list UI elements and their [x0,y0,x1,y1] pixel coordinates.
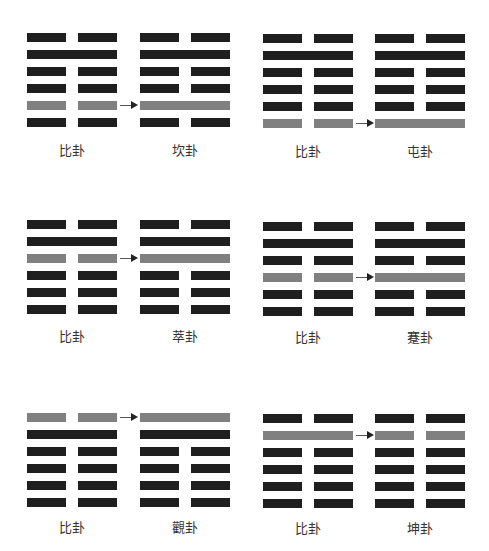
yang-line [27,430,117,439]
yin-line [263,256,353,265]
original-hexagram-label: 比卦 [278,327,338,346]
yin-line [27,67,117,76]
yin-line [27,118,117,127]
resulting-hexagram [375,34,465,129]
yin-line [140,498,230,507]
changing-yang-line [140,254,230,263]
original-hexagram [263,414,353,509]
yin-line [263,222,353,231]
yang-line [263,51,353,60]
yang-line [27,50,117,59]
yin-line [27,464,117,473]
change-arrow-icon [356,119,374,128]
resulting-hexagram [375,414,465,509]
resulting-hexagram [375,222,465,317]
yin-line [140,67,230,76]
yang-line [375,239,465,248]
yang-line [140,50,230,59]
yin-line [140,447,230,456]
yang-line [27,237,117,246]
yin-line [375,102,465,111]
yin-line [27,447,117,456]
yin-line [263,68,353,77]
yin-line [375,222,465,231]
yin-line [263,85,353,94]
changing-yang-line [140,413,230,422]
resulting-hexagram-label: 觀卦 [155,517,215,536]
change-arrow-icon [120,254,138,263]
changing-yin-line [263,273,353,282]
changing-yang-line [375,273,465,282]
yin-line [375,499,465,508]
changing-yang-line [263,431,353,440]
original-hexagram-label: 比卦 [278,141,338,160]
changing-yin-line [27,101,117,110]
yang-line [140,237,230,246]
changing-yang-line [375,119,465,128]
resulting-hexagram [140,413,230,508]
yin-line [263,482,353,491]
resulting-hexagram-label: 屯卦 [390,141,450,160]
resulting-hexagram [140,33,230,128]
yin-line [263,448,353,457]
yin-line [375,465,465,474]
resulting-hexagram [140,220,230,315]
yin-line [27,33,117,42]
original-hexagram-label: 比卦 [42,140,102,159]
resulting-hexagram-label: 萃卦 [155,326,215,345]
yin-line [27,305,117,314]
yin-line [375,482,465,491]
yin-line [140,271,230,280]
yin-line [27,84,117,93]
yin-line [140,84,230,93]
yin-line [140,305,230,314]
yin-line [375,307,465,316]
changing-yang-line [140,101,230,110]
changing-yin-line [27,254,117,263]
yang-line [263,239,353,248]
change-arrow-icon [120,413,138,422]
original-hexagram [263,222,353,317]
resulting-hexagram-label: 蹇卦 [390,327,450,346]
yin-line [375,414,465,423]
yin-line [375,68,465,77]
original-hexagram-label: 比卦 [42,517,102,536]
original-hexagram-label: 比卦 [278,518,338,537]
yang-line [140,430,230,439]
changing-yin-line [375,431,465,440]
yin-line [27,288,117,297]
yin-line [140,33,230,42]
yin-line [263,499,353,508]
yin-line [375,34,465,43]
yin-line [263,465,353,474]
yin-line [27,481,117,490]
resulting-hexagram-label: 坤卦 [390,518,450,537]
yin-line [263,290,353,299]
original-hexagram [263,34,353,129]
yin-line [140,464,230,473]
yin-line [140,118,230,127]
yin-line [375,290,465,299]
original-hexagram-label: 比卦 [42,326,102,345]
original-hexagram [27,33,117,128]
yin-line [27,498,117,507]
yin-line [375,85,465,94]
resulting-hexagram-label: 坎卦 [155,140,215,159]
yin-line [140,481,230,490]
yin-line [375,448,465,457]
yin-line [263,307,353,316]
yang-line [375,51,465,60]
yin-line [27,220,117,229]
yin-line [140,220,230,229]
yin-line [263,102,353,111]
yin-line [375,256,465,265]
yin-line [27,271,117,280]
change-arrow-icon [356,431,374,440]
original-hexagram [27,413,117,508]
changing-yin-line [27,413,117,422]
changing-yin-line [263,119,353,128]
yin-line [140,288,230,297]
yin-line [263,414,353,423]
yin-line [263,34,353,43]
original-hexagram [27,220,117,315]
